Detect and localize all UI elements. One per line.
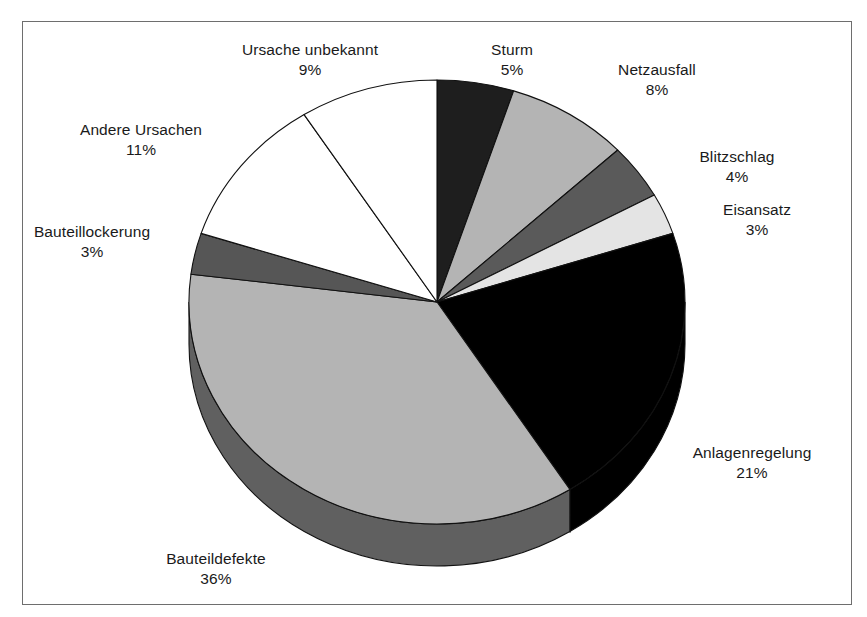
pie-label-name: Sturm bbox=[491, 40, 533, 60]
pie-label-name: Eisansatz bbox=[723, 200, 791, 220]
pie-label-anlagenregelung: Anlagenregelung21% bbox=[693, 443, 812, 483]
pie-label-name: Bauteillockerung bbox=[34, 222, 150, 242]
pie-label-ursache-unbekannt: Ursache unbekannt9% bbox=[242, 40, 378, 80]
pie-label-eisansatz: Eisansatz3% bbox=[723, 200, 791, 240]
pie-label-percent: 3% bbox=[34, 242, 150, 262]
pie-label-percent: 4% bbox=[699, 167, 774, 187]
pie-label-name: Bauteildefekte bbox=[166, 549, 266, 569]
pie-top-faces bbox=[189, 80, 685, 524]
pie-chart-svg bbox=[0, 0, 867, 617]
pie-label-percent: 9% bbox=[242, 60, 378, 80]
pie-label-name: Ursache unbekannt bbox=[242, 40, 378, 60]
pie-label-andere-ursachen: Andere Ursachen11% bbox=[80, 120, 202, 160]
pie-label-netzausfall: Netzausfall8% bbox=[618, 60, 696, 100]
pie-label-percent: 11% bbox=[80, 140, 202, 160]
pie-label-sturm: Sturm5% bbox=[491, 40, 533, 80]
pie-label-blitzschlag: Blitzschlag4% bbox=[699, 147, 774, 187]
pie-label-percent: 36% bbox=[166, 569, 266, 589]
pie-label-name: Andere Ursachen bbox=[80, 120, 202, 140]
pie-label-bauteillockerung: Bauteillockerung3% bbox=[34, 222, 150, 262]
pie-label-name: Netzausfall bbox=[618, 60, 696, 80]
pie-chart-figure: Ursache unbekannt9%Sturm5%Netzausfall8%B… bbox=[0, 0, 867, 617]
pie-label-name: Anlagenregelung bbox=[693, 443, 812, 463]
pie-label-percent: 3% bbox=[723, 220, 791, 240]
pie-label-percent: 21% bbox=[693, 463, 812, 483]
pie-label-percent: 5% bbox=[491, 60, 533, 80]
pie-label-bauteildefekte: Bauteildefekte36% bbox=[166, 549, 266, 589]
pie-label-percent: 8% bbox=[618, 80, 696, 100]
pie-label-name: Blitzschlag bbox=[699, 147, 774, 167]
